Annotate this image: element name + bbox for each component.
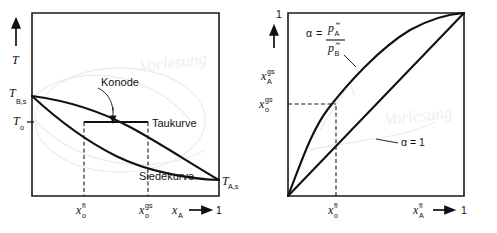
- left-x-tick-xogs-base: x: [138, 203, 145, 217]
- left-y-axis-label: T: [12, 53, 20, 67]
- left-x-end-label: 1: [216, 204, 222, 216]
- watermark-text-right: Vorlesung: [383, 103, 453, 129]
- right-x-end-label: 1: [461, 204, 467, 216]
- alpha-equals-one-label: α = 1: [401, 136, 425, 148]
- left-x-axis-label-base: x: [171, 203, 178, 217]
- left-corner-TAs: T A,s: [222, 174, 239, 191]
- right-y-axis-label-base: x: [260, 69, 267, 83]
- taukurve-path: [32, 96, 219, 180]
- right-x-axis-label-sub: A: [419, 211, 424, 220]
- left-y-tick-To: T o: [13, 114, 34, 132]
- right-x-axis-label-base: x: [412, 203, 419, 217]
- left-x-tick-xofl-sup: fl: [82, 201, 86, 210]
- left-panel-boiling-diagram: Vorlesung T T B,s T o: [0, 0, 250, 233]
- left-y-tick-TBs: T B,s: [9, 86, 27, 106]
- right-y-tick-xogs-sup: gs: [265, 95, 273, 104]
- left-x-tick-xofl: x o fl: [75, 201, 86, 220]
- x-axis-arrow-left: [189, 206, 211, 213]
- formula-alpha: α: [306, 27, 312, 39]
- left-corner-TAs-sub: A,s: [228, 182, 239, 191]
- right-x-axis-label: x A fl: [412, 201, 424, 220]
- left-x-tick-xogs: x o gs: [138, 201, 153, 220]
- siedekurve-label: Siedekurve: [139, 170, 194, 182]
- right-y-axis-label: x A gs: [260, 67, 275, 86]
- right-y-axis-label-sub: A: [267, 77, 272, 86]
- right-x-tick-xofl: x o fl: [327, 201, 338, 220]
- formula-denominator-sub: B: [335, 49, 340, 58]
- left-y-tick-TBs-sub: B,s: [16, 97, 27, 106]
- x-axis-arrow-right: [433, 206, 454, 213]
- left-y-tick-To-sub: o: [20, 123, 24, 132]
- formula-equals: =: [316, 27, 322, 39]
- formula-denominator-base: p: [327, 41, 334, 55]
- watermark-text-left: Vorlesung: [138, 49, 208, 76]
- left-x-tick-xogs-sub: o: [145, 211, 149, 220]
- right-y-top-label: 1: [276, 8, 282, 20]
- left-x-tick-xofl-sub: o: [82, 211, 86, 220]
- y-axis-arrow-left: [12, 19, 20, 46]
- watermark-left: Vorlesung: [30, 49, 208, 172]
- formula-numerator-sub: A: [335, 29, 340, 38]
- y-axis-arrow-right: [270, 26, 277, 48]
- figure-root: Vorlesung T T B,s T o: [0, 0, 497, 233]
- right-y-tick-xogs: x o gs: [258, 95, 273, 114]
- right-x-tick-xofl-base: x: [327, 203, 334, 217]
- konode-label: Konode: [101, 76, 139, 88]
- left-plot-frame: [32, 13, 219, 196]
- taukurve-label: Taukurve: [152, 117, 197, 129]
- right-x-tick-xofl-sup: fl: [334, 201, 338, 210]
- relative-volatility-formula: α = p A ⦵ p B ⦵: [306, 18, 356, 67]
- right-y-axis-label-sup: gs: [267, 67, 275, 76]
- siedekurve-path: [32, 96, 219, 180]
- right-x-tick-xofl-sub: o: [334, 211, 338, 220]
- right-y-tick-xogs-sub: o: [265, 105, 269, 114]
- formula-numerator-sup: ⦵: [335, 18, 341, 27]
- konode-leader: [98, 88, 116, 124]
- right-x-axis-label-sup: fl: [419, 201, 423, 210]
- left-x-axis-label: x A: [171, 203, 183, 220]
- left-x-tick-xofl-base: x: [75, 203, 82, 217]
- right-y-tick-xogs-base: x: [258, 97, 265, 111]
- right-panel-equilibrium-diagram: Vorlesung 1 x A gs x o gs: [250, 0, 497, 233]
- formula-numerator-base: p: [327, 21, 334, 35]
- left-x-tick-xogs-sup: gs: [145, 201, 153, 210]
- formula-denominator-sup: ⦵: [335, 38, 341, 47]
- left-x-axis-label-sub: A: [178, 211, 183, 220]
